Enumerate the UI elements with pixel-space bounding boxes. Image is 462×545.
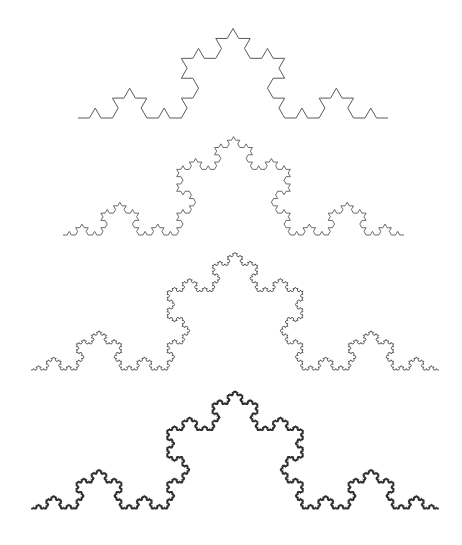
koch-curves-canvas [0,0,462,545]
koch-curve-figure [0,0,462,545]
figure-background [0,0,462,545]
